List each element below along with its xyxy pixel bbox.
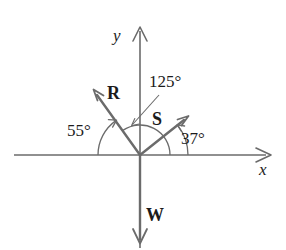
vector-diagram-figure: y x R S W 55° 125° 37° [0,0,286,250]
vector-W [133,155,147,244]
x-axis-label: x [259,161,267,178]
angle-arc-55 [98,120,117,155]
vector-S-label: S [152,110,162,128]
angle-37-label: 37° [181,130,205,147]
angle-125-label: 125° [149,73,181,90]
vector-W-label: W [146,206,164,224]
y-axis-label: y [113,27,121,44]
angle-55-label: 55° [67,122,91,139]
vector-diagram-canvas [0,0,286,250]
vector-R-label: R [107,84,120,102]
angle-125-leader-arrowhead [132,119,140,126]
x-axis [14,148,271,162]
